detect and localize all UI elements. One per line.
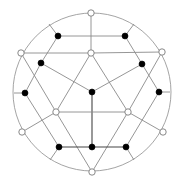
black-node-b_mid_left xyxy=(38,60,44,66)
black-node-b_right xyxy=(156,89,162,95)
black-node-b_top_left xyxy=(55,33,61,39)
white-node-w_left_lower xyxy=(19,129,25,135)
white-node-w_upper_mid xyxy=(88,50,94,56)
white-node-w_left_upper xyxy=(18,50,24,56)
edge-b_mid_left-b_center xyxy=(41,63,92,92)
edge-w_upper_mid-w_inner_right xyxy=(91,53,128,112)
edge-w_right_upper-w_inner_right xyxy=(128,52,162,112)
white-node-w_bottom xyxy=(89,169,95,175)
black-node-b_center xyxy=(89,89,95,95)
white-node-w_right_lower xyxy=(160,129,166,135)
edge-b_mid_left-b_left xyxy=(25,63,41,93)
edge-w_upper_mid-w_inner_left xyxy=(56,53,91,112)
edge-w_inner_right-w_bottom xyxy=(92,112,128,172)
black-node-b_mid_right xyxy=(139,61,145,67)
white-node-w_top xyxy=(88,10,94,16)
black-node-b_bottom_mid xyxy=(89,144,95,150)
white-node-w_inner_right xyxy=(125,109,131,115)
edge-b_left-b_bottom_left xyxy=(25,93,59,147)
edge-b_right-b_bottom_right xyxy=(126,92,159,147)
nodes-group xyxy=(18,10,166,175)
edge-w_upper_mid-w_right_upper xyxy=(91,52,162,53)
black-node-b_left xyxy=(22,90,28,96)
edge-b_top_right-b_mid_right xyxy=(125,36,142,64)
black-node-b_top_right xyxy=(122,33,128,39)
graph-diagram xyxy=(0,0,184,182)
black-node-b_bottom_left xyxy=(56,144,62,150)
edge-b_top_left-b_mid_left xyxy=(41,36,58,63)
edge-b_mid_right-b_center xyxy=(92,64,142,92)
white-node-w_inner_left xyxy=(53,109,59,115)
white-node-w_right_upper xyxy=(159,49,165,55)
edge-b_mid_right-b_right xyxy=(142,64,159,92)
black-node-b_bottom_right xyxy=(123,144,129,150)
edge-w_inner_left-w_bottom xyxy=(56,112,92,172)
